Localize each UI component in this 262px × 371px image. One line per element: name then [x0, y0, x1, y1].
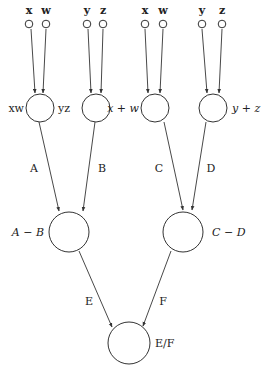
- input-node-z-1: [99, 20, 107, 28]
- label-xw: xw: [8, 102, 24, 115]
- label-x-plus-w: x + w: [107, 102, 139, 115]
- label-E-over-F: E/F: [155, 337, 175, 350]
- input-node-x-1: [25, 20, 33, 28]
- input-label-z-2: z: [219, 4, 225, 17]
- edge-A: [39, 122, 59, 211]
- input-label-y-1: y: [83, 4, 91, 17]
- node-x-plus-w: [141, 94, 169, 122]
- edges-layer1-to-layer2: [39, 122, 206, 211]
- input-node-x-2: [141, 20, 149, 28]
- edge-label-B: B: [98, 162, 106, 175]
- node-y-plus-z: [199, 94, 227, 122]
- edge-D: [192, 122, 206, 210]
- edge-z2-to-ypz: [219, 29, 222, 93]
- node-E-over-F: [108, 322, 150, 364]
- computation-graph: x w y z x w y z xw yz: [0, 0, 262, 371]
- edges-input-to-layer1: [31, 29, 222, 93]
- input-node-w-2: [159, 20, 167, 28]
- input-label-y-2: y: [198, 4, 206, 17]
- edge-label-A: A: [29, 162, 39, 175]
- label-C-minus-D: C − D: [212, 226, 246, 239]
- edge-y2-to-ypz: [202, 29, 207, 93]
- layer2-labels: A − B C − D: [11, 226, 246, 239]
- input-label-w-1: w: [40, 4, 51, 17]
- edge-label-E: E: [85, 295, 93, 308]
- node-C-minus-D: [163, 212, 203, 252]
- input-node-y-2: [198, 20, 206, 28]
- input-label-z-1: z: [100, 4, 106, 17]
- edge-B: [83, 122, 95, 211]
- input-node-y-1: [83, 20, 91, 28]
- edge-x2-to-xpw: [145, 29, 148, 93]
- node-yz: [82, 94, 110, 122]
- edge-y1-to-yz: [88, 29, 91, 93]
- input-label-x-2: x: [142, 4, 149, 17]
- input-labels: x w y z x w y z: [26, 4, 225, 17]
- edges-layer2-to-output: [79, 251, 171, 327]
- layer2-nodes: [49, 212, 203, 252]
- input-nodes: [25, 20, 226, 28]
- edge-w1-to-xw: [43, 29, 46, 93]
- edge-C: [164, 122, 183, 210]
- edge-x1-to-xw: [31, 29, 35, 93]
- label-yz: yz: [57, 102, 70, 115]
- edge-label-D: D: [207, 162, 216, 175]
- edge-label-F: F: [159, 295, 167, 308]
- node-xw: [26, 94, 54, 122]
- label-y-plus-z: y + z: [231, 102, 260, 115]
- edge-label-C: C: [155, 162, 163, 175]
- edge-w2-to-xpw: [160, 29, 163, 93]
- edge-labels-layer2: E F: [85, 295, 167, 308]
- input-label-x-1: x: [26, 4, 33, 17]
- input-node-z-2: [218, 20, 226, 28]
- input-node-w-1: [42, 20, 50, 28]
- label-A-minus-B: A − B: [11, 226, 44, 239]
- edge-E: [79, 251, 112, 327]
- input-label-w-2: w: [157, 4, 168, 17]
- edge-F: [143, 251, 171, 326]
- edge-z1-to-yz: [101, 29, 103, 93]
- node-A-minus-B: [49, 212, 89, 252]
- edge-labels-layer1: A B C D: [29, 162, 216, 175]
